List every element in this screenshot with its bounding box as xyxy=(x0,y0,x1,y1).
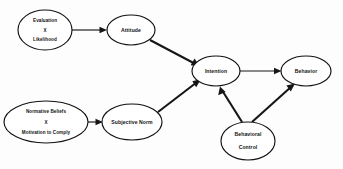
node-behavior[interactable]: Behavior xyxy=(281,56,331,86)
node-behavioral-control[interactable]: Behavioral Control xyxy=(221,122,275,160)
edge-control-to-behavior xyxy=(252,84,295,123)
edge-evaluation-to-attitude xyxy=(72,27,107,33)
node-intention[interactable]: Intention xyxy=(192,56,240,86)
node-label-line1: Behavioral xyxy=(235,131,262,137)
node-label-line3: Motivation to Comply xyxy=(22,130,71,135)
node-subjective-norm[interactable]: Subjective Norm xyxy=(102,104,162,140)
node-label: Subjective Norm xyxy=(111,119,153,125)
node-label-line1: Normative Beliefs xyxy=(26,109,67,114)
node-label: Intention xyxy=(205,68,227,74)
edge-intention-to-behavior xyxy=(240,68,282,74)
edge-normative-to-subjective xyxy=(88,119,103,125)
node-shape[interactable] xyxy=(221,122,275,160)
arrow-head xyxy=(274,68,282,74)
edge-line xyxy=(150,40,195,64)
edge-line xyxy=(158,83,197,113)
node-attitude[interactable]: Attitude xyxy=(107,15,155,45)
node-evaluation-likelihood[interactable]: Evaluation X Likelihood xyxy=(18,10,72,50)
edge-line xyxy=(223,91,243,122)
node-label: Behavior xyxy=(295,68,317,74)
node-label-line2: Control xyxy=(239,144,258,150)
node-label: Attitude xyxy=(121,27,141,33)
edge-line xyxy=(252,87,292,123)
diagram-canvas: Evaluation X Likelihood Attitude Normati… xyxy=(0,0,343,169)
arrow-head xyxy=(100,27,108,33)
node-label-line3: Likelihood xyxy=(33,37,57,42)
edge-control-to-intention xyxy=(218,87,242,123)
edge-subjective-to-intention xyxy=(158,79,201,112)
edge-attitude-to-intention xyxy=(150,40,200,66)
node-label-line1: Evaluation xyxy=(33,18,57,23)
tpb-diagram: Evaluation X Likelihood Attitude Normati… xyxy=(0,0,343,169)
node-normative-beliefs[interactable]: Normative Beliefs X Motivation to Comply xyxy=(4,101,88,143)
